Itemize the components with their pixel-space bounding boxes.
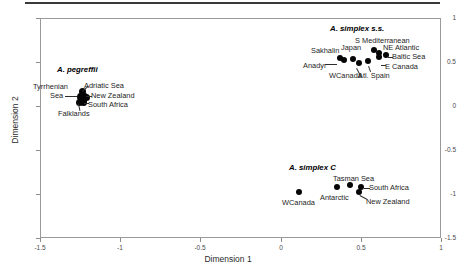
point-label-antarctic: Antarctic bbox=[320, 194, 349, 202]
y-tick-label-1: 0.5 bbox=[422, 58, 456, 65]
point-ss-atl-spain bbox=[365, 58, 371, 64]
point-label-ne-atlantic: NE Atlantic bbox=[383, 44, 419, 52]
x-tick-4 bbox=[361, 238, 362, 242]
point-label-tyrrhenian: Tyrrhenian bbox=[33, 83, 68, 91]
point-label-sakhalin: Sakhalin bbox=[311, 47, 339, 55]
y-tick-2 bbox=[36, 106, 40, 107]
x-tick-3 bbox=[281, 238, 282, 242]
x-tick-label-5: 1 bbox=[421, 244, 461, 251]
x-axis-label: Dimension 1 bbox=[0, 254, 456, 264]
x-tick-label-0: -1.5 bbox=[20, 244, 60, 251]
x-tick-2 bbox=[200, 238, 201, 242]
x-tick-0 bbox=[40, 238, 41, 242]
leader-baltic bbox=[388, 57, 393, 58]
point-label-new-zealand: New Zealand bbox=[91, 92, 135, 100]
y-tick-label-0: 1 bbox=[422, 14, 456, 21]
leader-anadyr bbox=[325, 64, 337, 65]
y-tick-label-2: 0 bbox=[422, 102, 456, 109]
point-ss-e-canada bbox=[376, 54, 382, 60]
point-label-falklands: Falklands bbox=[58, 110, 90, 118]
point-label-anadyr: Anadyr bbox=[303, 62, 326, 70]
point-label-new-zealand-c: New Zealand bbox=[366, 198, 410, 206]
leader-south-africa-c bbox=[364, 188, 370, 189]
header-rule bbox=[25, 2, 440, 4]
x-tick-label-2: -0.5 bbox=[180, 244, 220, 251]
point-ss-anadyr bbox=[341, 57, 347, 63]
point-ss-japan bbox=[350, 56, 356, 62]
leader-south-africa bbox=[84, 103, 89, 104]
point-label-tasman-sea: Tasman Sea bbox=[333, 175, 374, 183]
point-label-baltic-sea: Baltic Sea bbox=[392, 53, 425, 61]
point-label-atl-spain: Atl. Spain bbox=[358, 72, 390, 80]
y-tick-label-3: -0.5 bbox=[422, 146, 456, 153]
y-tick-0 bbox=[36, 18, 40, 19]
y-tick-1 bbox=[36, 62, 40, 63]
x-tick-label-3: 0 bbox=[261, 244, 301, 251]
point-c-wcanada bbox=[296, 189, 302, 195]
leader-new-zealand bbox=[86, 96, 92, 97]
point-pegreffii-core bbox=[78, 92, 88, 103]
point-label-south-africa-c: South Africa bbox=[369, 184, 409, 192]
y-axis-label: Dimension 2 bbox=[10, 60, 20, 180]
point-c-antarctic bbox=[334, 184, 340, 190]
x-tick-1 bbox=[120, 238, 121, 242]
point-label-sea: Sea bbox=[50, 92, 63, 100]
point-label-wcanada-ss: WCanada bbox=[329, 72, 362, 80]
leader-tyrrhenian bbox=[65, 96, 77, 97]
x-tick-5 bbox=[441, 238, 442, 242]
point-label-adriatic-sea: Adriatic Sea bbox=[84, 82, 124, 90]
group-label-pegreffii: A. pegreffii bbox=[57, 65, 98, 74]
x-tick-label-4: 0.5 bbox=[341, 244, 381, 251]
point-label-japan: Japan bbox=[341, 44, 361, 52]
y-tick-4 bbox=[36, 194, 40, 195]
group-label-simplex-ss: A. simplex s.s. bbox=[330, 24, 384, 33]
y-tick-3 bbox=[36, 150, 40, 151]
point-ss-wcanada bbox=[356, 60, 362, 66]
point-label-e-canada: E Canada bbox=[385, 63, 418, 71]
leader-e-canada bbox=[381, 65, 386, 66]
y-tick-label-5: -1.5 bbox=[422, 234, 456, 241]
group-label-simplex-c: A. simplex C bbox=[289, 163, 336, 172]
x-tick-label-1: -1 bbox=[100, 244, 140, 251]
y-tick-label-4: -1 bbox=[422, 190, 456, 197]
point-label-wcanada-c: WCanada bbox=[282, 199, 315, 207]
point-label-south-africa: South Africa bbox=[88, 101, 128, 109]
